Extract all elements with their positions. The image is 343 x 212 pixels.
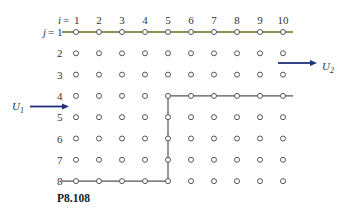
grid-node — [212, 179, 217, 184]
row-label: 2 — [57, 47, 63, 59]
grid-node — [235, 136, 240, 141]
row-label: 5 — [57, 111, 63, 123]
grid-node — [212, 72, 217, 77]
grid-node — [143, 179, 148, 184]
grid-node — [212, 51, 217, 56]
grid-node — [166, 115, 171, 120]
grid-node — [189, 51, 194, 56]
grid-node — [189, 30, 194, 35]
i-label: i — [58, 14, 61, 26]
grid-node — [258, 72, 263, 77]
grid-node — [235, 93, 240, 98]
column-label: 4 — [142, 14, 148, 26]
grid-node — [258, 30, 263, 35]
grid-node — [120, 30, 125, 35]
grid-node — [189, 157, 194, 162]
grid-node — [120, 157, 125, 162]
grid-node — [143, 51, 148, 56]
j-equals: = — [48, 26, 54, 38]
grid-node — [258, 136, 263, 141]
grid-node — [97, 157, 102, 162]
row-label: 6 — [57, 133, 63, 145]
grid-node — [212, 93, 217, 98]
grid-node — [120, 115, 125, 120]
grid-node — [97, 51, 102, 56]
grid-node — [143, 93, 148, 98]
grid-node — [143, 157, 148, 162]
grid-node — [166, 51, 171, 56]
grid-node — [166, 72, 171, 77]
grid-node — [120, 136, 125, 141]
grid-node — [281, 136, 286, 141]
grid-node — [235, 30, 240, 35]
grid-node — [166, 93, 171, 98]
grid-node — [74, 51, 79, 56]
grid-node — [189, 115, 194, 120]
grid-node — [281, 51, 286, 56]
grid-node — [143, 30, 148, 35]
grid-node — [143, 115, 148, 120]
grid-node — [143, 72, 148, 77]
grid-node — [258, 93, 263, 98]
column-label: 10 — [278, 14, 290, 26]
grid-node — [74, 157, 79, 162]
column-label: 1 — [74, 14, 80, 26]
grid-node — [143, 136, 148, 141]
outflow-label: U2 — [322, 60, 334, 75]
grid-node — [212, 115, 217, 120]
grid-node — [74, 72, 79, 77]
grid-node — [120, 72, 125, 77]
row-label: 4 — [57, 90, 63, 102]
grid-node — [74, 115, 79, 120]
grid-node — [120, 51, 125, 56]
outflow-arrow-head — [310, 60, 317, 66]
row-label: 8 — [57, 175, 63, 187]
grid-node — [258, 179, 263, 184]
grid-node — [281, 179, 286, 184]
grid-node — [212, 30, 217, 35]
grid-nodes — [74, 30, 286, 184]
grid-node — [235, 72, 240, 77]
grid-node — [235, 115, 240, 120]
grid-node — [189, 136, 194, 141]
row-label: 1 — [57, 26, 63, 38]
grid-node — [281, 93, 286, 98]
grid-node — [281, 30, 286, 35]
row-label: 7 — [57, 154, 63, 166]
grid-node — [258, 157, 263, 162]
grid-node — [97, 179, 102, 184]
grid-node — [235, 179, 240, 184]
grid-node — [281, 72, 286, 77]
column-label: 6 — [188, 14, 194, 26]
column-label: 7 — [211, 14, 217, 26]
grid-node — [166, 136, 171, 141]
grid-node — [212, 136, 217, 141]
grid-node — [189, 72, 194, 77]
grid-node — [120, 93, 125, 98]
grid-node — [235, 51, 240, 56]
grid-node — [74, 30, 79, 35]
inflow-arrow-head — [62, 104, 69, 110]
grid-diagram: 12345678910 12345678 i = j = U1 U2 P8.10… — [0, 0, 343, 212]
grid-node — [189, 93, 194, 98]
inflow-label: U1 — [12, 100, 24, 115]
grid-node — [235, 157, 240, 162]
grid-node — [97, 72, 102, 77]
column-label: 8 — [234, 14, 240, 26]
j-label: j — [41, 26, 46, 38]
grid-node — [281, 157, 286, 162]
grid-node — [189, 179, 194, 184]
grid-node — [212, 157, 217, 162]
column-label: 2 — [96, 14, 102, 26]
grid-node — [258, 51, 263, 56]
grid-node — [74, 179, 79, 184]
grid-node — [97, 93, 102, 98]
grid-node — [97, 115, 102, 120]
i-equals: = — [63, 14, 69, 26]
column-label: 3 — [119, 14, 125, 26]
outflow-arrow: U2 — [278, 60, 334, 75]
grid-node — [74, 93, 79, 98]
grid-node — [97, 30, 102, 35]
column-labels: 12345678910 — [74, 14, 289, 26]
grid-node — [166, 179, 171, 184]
